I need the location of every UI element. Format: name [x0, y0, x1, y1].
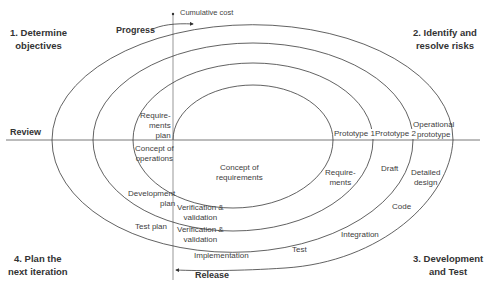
operational-prototype-line-2: prototype — [413, 130, 454, 140]
draft-label: Draft — [381, 164, 398, 174]
requirements-line-2: ments — [325, 178, 356, 188]
release-label: Release — [195, 270, 229, 280]
concept-of-requirements-label: Concept of requirements — [216, 163, 263, 183]
verification-validation-1-label: Verification & validation — [177, 203, 224, 223]
concept-of-requirements-line-1: Concept of — [216, 163, 263, 173]
progress-label: Progress — [116, 25, 155, 35]
quadrant-4-title: 4. Plan the next iteration — [8, 252, 68, 278]
development-plan-line-2: plan — [128, 199, 175, 209]
verification-validation-1-line-2: validation — [177, 213, 224, 223]
requirements-plan-line-1: Require- — [140, 111, 171, 121]
implementation-label: Implementation — [194, 251, 249, 261]
operational-prototype-line-1: Operational — [413, 120, 454, 130]
requirements-label: Require- ments — [325, 168, 356, 188]
integration-label: Integration — [341, 230, 379, 240]
cumulative-cost-label: Cumulative cost — [180, 8, 233, 17]
concept-of-operations-label: Concept of operations — [135, 144, 174, 164]
test-plan-label: Test plan — [135, 222, 167, 232]
development-plan-label: Development plan — [128, 189, 175, 209]
quadrant-2-line-1: 2. Identify and — [413, 26, 477, 39]
detailed-design-line-2: design — [411, 178, 440, 188]
prototype-1-label: Prototype 1 — [334, 129, 375, 139]
spiral-diagram: 1. Determine objectives 2. Identify and … — [0, 0, 485, 284]
requirements-line-1: Require- — [325, 168, 356, 178]
quadrant-1-line-1: 1. Determine — [10, 26, 67, 39]
verification-validation-1-line-1: Verification & — [177, 203, 224, 213]
quadrant-1-line-2: objectives — [10, 39, 67, 52]
concept-of-operations-line-2: operations — [135, 154, 174, 164]
test-label: Test — [292, 245, 307, 255]
detailed-design-label: Detailed design — [411, 168, 440, 188]
verification-validation-2-line-2: validation — [177, 235, 224, 245]
requirements-plan-line-2: ments — [140, 121, 171, 131]
requirements-plan-line-3: plan — [140, 131, 171, 141]
detailed-design-line-1: Detailed — [411, 168, 440, 178]
quadrant-3-title: 3. Development and Test — [413, 252, 483, 278]
prototype-2-label: Prototype 2 — [375, 129, 416, 139]
code-label: Code — [392, 202, 411, 212]
verification-validation-2-label: Verification & validation — [177, 225, 224, 245]
development-plan-line-1: Development — [128, 189, 175, 199]
requirements-plan-label: Require- ments plan — [140, 111, 171, 141]
quadrant-3-line-2: and Test — [413, 265, 483, 278]
quadrant-2-title: 2. Identify and resolve risks — [413, 26, 477, 52]
concept-of-operations-line-1: Concept of — [135, 144, 174, 154]
review-label: Review — [10, 127, 41, 137]
verification-validation-2-line-1: Verification & — [177, 225, 224, 235]
quadrant-4-line-2: next iteration — [8, 265, 68, 278]
operational-prototype-label: Operational prototype — [413, 120, 454, 140]
quadrant-1-title: 1. Determine objectives — [10, 26, 67, 52]
concept-of-requirements-line-2: requirements — [216, 173, 263, 183]
quadrant-3-line-1: 3. Development — [413, 252, 483, 265]
quadrant-4-line-1: 4. Plan the — [8, 252, 68, 265]
quadrant-2-line-2: resolve risks — [413, 39, 477, 52]
